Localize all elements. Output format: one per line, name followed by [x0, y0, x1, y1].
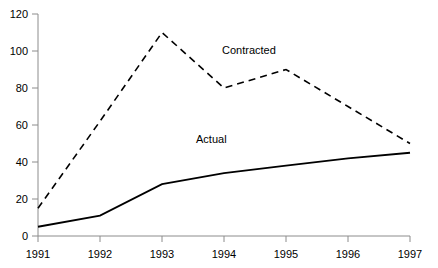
- series-line-contracted: [38, 33, 410, 209]
- y-axis-label-20: 20: [0, 194, 28, 205]
- y-axis-label-60: 60: [0, 120, 28, 131]
- series-label-actual: Actual: [196, 134, 227, 145]
- series-line-actual: [38, 153, 410, 227]
- x-axis-label-1994: 1994: [202, 249, 246, 260]
- x-axis-label-1993: 1993: [140, 249, 184, 260]
- y-axis-label-80: 80: [0, 83, 28, 94]
- y-axis-label-120: 120: [0, 9, 28, 20]
- y-axis-label-100: 100: [0, 46, 28, 57]
- x-axis-label-1992: 1992: [78, 249, 122, 260]
- series-label-contracted: Contracted: [222, 45, 276, 56]
- y-axis-label-40: 40: [0, 157, 28, 168]
- y-axis-ticks: [32, 14, 38, 236]
- x-axis-label-1996: 1996: [326, 249, 370, 260]
- x-axis-label-1991: 1991: [16, 249, 60, 260]
- x-axis-label-1997: 1997: [388, 249, 432, 260]
- y-axis-label-0: 0: [0, 231, 28, 242]
- x-axis-ticks: [38, 236, 410, 242]
- line-chart: 120 100 80 60 40 20 0 1991 1992 1993 199…: [0, 0, 438, 268]
- x-axis-label-1995: 1995: [264, 249, 308, 260]
